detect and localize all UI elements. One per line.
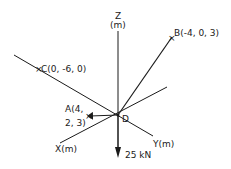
point-a-marker: × [85, 111, 93, 121]
load-arrowhead-icon [115, 147, 121, 158]
y-axis-label: Y(m) [152, 139, 174, 149]
point-a-label-line1: A(4, [65, 104, 83, 114]
origin-label: D [122, 114, 129, 124]
point-c-label: C(0, -6, 0) [41, 64, 86, 74]
member-da [90, 115, 118, 116]
z-axis-unit: (m) [110, 20, 126, 30]
load-label: 25 kN [125, 150, 151, 160]
member-db [118, 37, 172, 115]
point-b-label: B(-4, 0, 3) [174, 28, 219, 38]
x-axis-label: X(m) [55, 144, 77, 154]
force-diagram: Z (m) Y(m) X(m) × B(-4, 0, 3) × C(0, -6,… [0, 0, 231, 169]
point-a-label-line2: 2, 3) [65, 118, 86, 128]
